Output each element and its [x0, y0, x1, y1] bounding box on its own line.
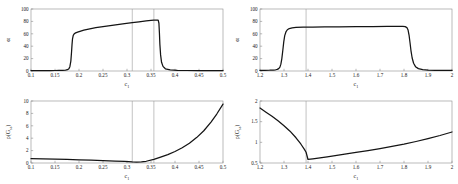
x-tick-label: 0.2: [76, 164, 83, 170]
x-tick-label: 0.5: [220, 72, 227, 78]
x-tick-label: 1.2: [257, 72, 264, 78]
y-axis-label: α: [4, 38, 12, 42]
x-tick-label: 0.3: [124, 164, 131, 170]
x-tick-label: 0.25: [99, 72, 108, 78]
x-tick-label: 2: [451, 72, 454, 78]
y-axis-label: ρ(Gss): [234, 125, 242, 140]
x-axis-label: c1: [125, 173, 130, 181]
panel-bottom-left: 0.10.150.20.250.30.350.40.450.50246810c1…: [0, 92, 229, 184]
y-axis-label: ρ(Gss): [5, 125, 13, 140]
y-axis-label: α: [233, 38, 241, 42]
plot-frame: [31, 101, 223, 163]
x-tick-label: 1.7: [377, 72, 384, 78]
x-tick-label: 1.8: [401, 164, 408, 170]
x-tick-label: 0.35: [147, 164, 156, 170]
panel-top-left: 0.10.150.20.250.30.350.40.450.5020406080…: [0, 0, 229, 92]
plot-frame: [260, 9, 452, 71]
plot-frame: [260, 101, 452, 163]
x-tick-label: 0.1: [28, 72, 35, 78]
x-tick-label: 2: [451, 164, 454, 170]
y-tick-label: 0: [26, 160, 29, 166]
y-tick-label: 20: [24, 55, 30, 61]
figure-four-panel-plots: 0.10.150.20.250.30.350.40.450.5020406080…: [0, 0, 458, 184]
x-tick-label: 1.4: [305, 164, 312, 170]
x-tick-label: 0.45: [195, 72, 204, 78]
y-tick-label: 60: [253, 31, 259, 37]
x-tick-label: 0.15: [51, 164, 60, 170]
y-tick-label: 60: [24, 31, 30, 37]
y-tick-label: 80: [253, 18, 259, 24]
x-tick-label: 0.45: [195, 164, 204, 170]
x-tick-label: 1.9: [425, 72, 432, 78]
plot-top-left: 0.10.150.20.250.30.350.40.450.5020406080…: [0, 0, 229, 92]
x-tick-label: 1.3: [281, 72, 288, 78]
x-axis-label: c1: [354, 173, 359, 181]
y-tick-label: 2: [26, 147, 29, 153]
x-tick-label: 1.5: [329, 72, 336, 78]
x-tick-label: 0.1: [28, 164, 35, 170]
x-tick-label: 0.25: [99, 164, 108, 170]
x-tick-label: 1.8: [401, 72, 408, 78]
x-tick-label: 0.4: [172, 164, 179, 170]
x-tick-label: 1.5: [329, 164, 336, 170]
plot-top-right: 1.21.31.41.51.61.71.81.92020406080100c1α: [229, 0, 458, 92]
x-tick-label: 0.4: [172, 72, 179, 78]
x-tick-label: 0.3: [124, 72, 131, 78]
y-tick-label: 6: [26, 123, 29, 129]
x-tick-label: 0.15: [51, 72, 60, 78]
x-tick-label: 1.6: [353, 72, 360, 78]
x-tick-label: 0.5: [220, 164, 227, 170]
y-tick-label: 100: [21, 6, 29, 12]
y-tick-label: 1.5: [251, 118, 258, 124]
y-tick-label: 100: [250, 6, 258, 12]
y-tick-label: 40: [24, 43, 30, 49]
y-tick-label: 0: [255, 68, 258, 74]
x-axis-label: c1: [125, 81, 130, 89]
x-axis-label: c1: [354, 81, 359, 89]
panel-bottom-right: 1.21.31.41.51.61.71.81.920.511.52c1ρ(Gss…: [229, 92, 458, 184]
panel-top-right: 1.21.31.41.51.61.71.81.92020406080100c1α: [229, 0, 458, 92]
y-tick-label: 8: [26, 110, 29, 116]
y-tick-label: 40: [253, 43, 259, 49]
x-tick-label: 1.2: [257, 164, 264, 170]
y-tick-label: 20: [253, 55, 259, 61]
y-tick-label: 2: [255, 98, 258, 104]
x-tick-label: 0.2: [76, 72, 83, 78]
y-tick-label: 0.5: [251, 160, 258, 166]
x-tick-label: 1.9: [425, 164, 432, 170]
x-tick-label: 1.6: [353, 164, 360, 170]
y-tick-label: 0: [26, 68, 29, 74]
y-tick-label: 1: [255, 139, 258, 145]
y-tick-label: 80: [24, 18, 30, 24]
x-tick-label: 1.3: [281, 164, 288, 170]
x-tick-label: 0.35: [147, 72, 156, 78]
x-tick-label: 1.7: [377, 164, 384, 170]
plot-bottom-left: 0.10.150.20.250.30.350.40.450.50246810c1…: [0, 92, 229, 184]
x-tick-label: 1.4: [305, 72, 312, 78]
plot-frame: [31, 9, 223, 71]
plot-bottom-right: 1.21.31.41.51.61.71.81.920.511.52c1ρ(Gss…: [229, 92, 458, 184]
y-tick-label: 10: [24, 98, 30, 104]
y-tick-label: 4: [26, 135, 29, 141]
